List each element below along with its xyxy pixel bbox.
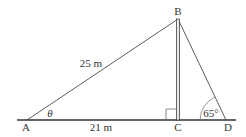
line-bd [178, 19, 226, 120]
point-d-label: D [224, 121, 232, 133]
point-a-label: A [22, 121, 30, 133]
angle-theta-label: θ [47, 107, 53, 119]
point-c-label: C [174, 121, 181, 133]
angle-d-label: 65° [203, 107, 218, 119]
length-ab-label: 25 m [80, 57, 103, 69]
triangle-diagram: B A C D 25 m 21 m θ 65° [0, 0, 246, 137]
line-ab [27, 19, 178, 120]
pole-bc [177, 19, 180, 120]
right-angle-marker [166, 109, 177, 120]
point-b-label: B [174, 5, 181, 17]
length-ac-label: 21 m [90, 121, 113, 133]
